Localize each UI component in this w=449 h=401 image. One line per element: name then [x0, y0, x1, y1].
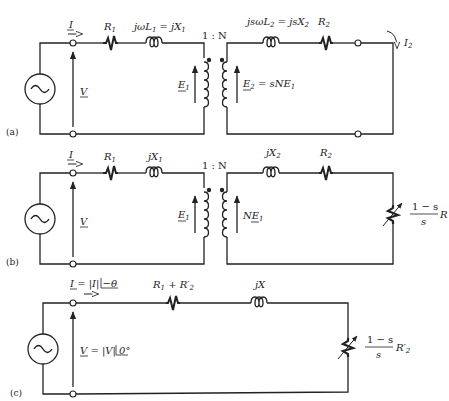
circuit-diagram: V I R1 jωL1 = jX1 1 : N E1 — [0, 0, 449, 401]
transformer-icon: 1 : N — [202, 160, 227, 237]
current-label: I — [68, 19, 74, 30]
load-label: 1 − s s R′2 — [365, 334, 411, 360]
x2-label: jX2 — [264, 147, 281, 160]
inductor-icon — [146, 37, 162, 47]
e2-label: E2 = sNE1 — [242, 78, 295, 91]
resistor-icon — [103, 36, 118, 50]
resistor-icon — [319, 36, 333, 50]
current-label: I — [68, 149, 74, 160]
voltage-label: V = |V| 0° — [80, 345, 130, 357]
l1-label: jωL1 = jX1 — [132, 21, 186, 34]
terminal-circle-icon — [355, 131, 361, 137]
current-label: I = |I| −θ — [69, 278, 118, 290]
turns-ratio-label: 1 : N — [202, 160, 227, 171]
terminal-circle-icon — [70, 300, 76, 306]
load-label: 1 − s s R — [410, 201, 448, 227]
svg-text:R′2: R′2 — [395, 342, 411, 355]
svg-text:s: s — [421, 216, 426, 227]
terminal-circle-icon — [70, 170, 76, 176]
terminal-circle-icon — [70, 40, 76, 46]
x1-label: jX1 — [146, 151, 163, 164]
resistor-icon — [103, 166, 118, 180]
voltage-label: V — [80, 216, 89, 227]
turns-ratio-label: 1 : N — [202, 30, 227, 41]
x-label: jX — [253, 279, 266, 290]
e1-label: E1 — [177, 209, 190, 222]
panel-label-c: (c) — [10, 388, 22, 398]
r2-label: R2 — [319, 147, 333, 160]
terminal-circle-icon — [355, 40, 361, 46]
terminal-circle-icon — [70, 131, 76, 137]
inductor-icon — [263, 37, 279, 47]
panel-b: V I R1 jX1 1 : N E1 — [6, 147, 448, 267]
terminal-circle-icon — [70, 391, 76, 397]
ac-source-icon — [25, 74, 55, 104]
i2-label: I2 — [403, 37, 413, 50]
variable-resistor-icon — [383, 203, 402, 226]
variable-resistor-icon — [338, 336, 357, 359]
inductor-icon — [146, 167, 162, 177]
resistor-icon — [319, 166, 333, 180]
svg-text:R: R — [439, 209, 448, 220]
ac-source-icon — [25, 204, 55, 234]
voltage-label: V — [80, 86, 89, 97]
panel-label-a: (a) — [6, 127, 18, 137]
svg-text:1 − s: 1 − s — [412, 201, 438, 212]
inductor-icon — [263, 167, 279, 177]
r-total-label: R1 + R′2 — [152, 279, 195, 292]
r1-label: R1 — [103, 21, 116, 34]
terminal-circle-icon — [70, 261, 76, 267]
panel-a: V I R1 jωL1 = jX1 1 : N E1 — [6, 16, 413, 137]
transformer-icon: 1 : N — [202, 30, 227, 107]
r2-label: R2 — [317, 16, 331, 29]
panel-c: V = |V| 0° I = |I| −θ R1 + R′2 jX 1 − s — [10, 278, 411, 398]
inductor-icon — [251, 297, 267, 307]
l2-label: jsωL2 = jsX2 — [245, 16, 310, 29]
resistor-icon — [166, 296, 180, 310]
svg-text:1 − s: 1 − s — [367, 334, 393, 345]
ac-source-icon — [28, 334, 58, 364]
e1-label: E1 — [177, 79, 190, 92]
svg-text:s: s — [376, 349, 381, 360]
i2-arrow-icon — [387, 31, 397, 48]
r1-label: R1 — [103, 151, 116, 164]
panel-label-b: (b) — [6, 257, 19, 267]
ne1-label: NE1 — [242, 210, 264, 223]
